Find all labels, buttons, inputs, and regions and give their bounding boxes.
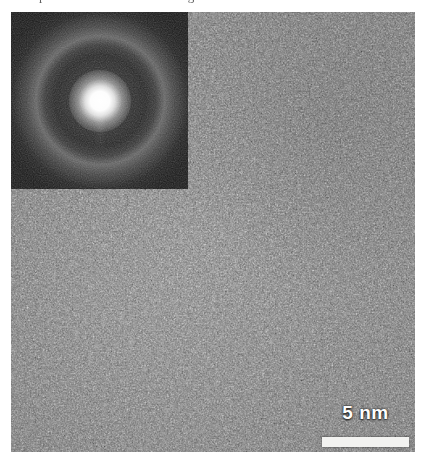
scale-bar-rule bbox=[322, 437, 409, 447]
inset-grain-texture bbox=[11, 12, 188, 189]
clipped-caption-text: amorphous thin film region bbox=[0, 0, 429, 3]
scale-bar-label: 5 nm bbox=[318, 402, 413, 424]
diffraction-inset-panel bbox=[11, 12, 188, 189]
micrograph-panel: 5 nm bbox=[11, 12, 415, 452]
scale-bar-group: 5 nm bbox=[318, 402, 413, 448]
tem-figure: amorphous thin film region bbox=[0, 0, 429, 461]
